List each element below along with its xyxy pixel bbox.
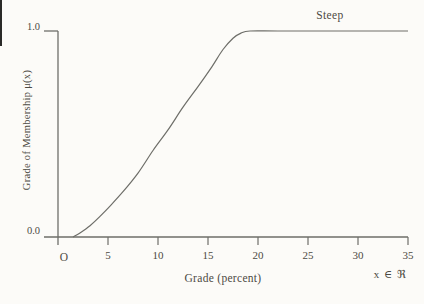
x-axis-title: Grade (percent) bbox=[185, 272, 262, 284]
x-tick-label-5: 5 bbox=[105, 249, 111, 261]
x-tick-label-35: 35 bbox=[403, 249, 414, 261]
x-tick-label-25: 25 bbox=[303, 249, 314, 261]
x-tick-label-15: 15 bbox=[203, 249, 214, 261]
curve-label: Steep bbox=[316, 9, 344, 21]
origin-label: O bbox=[60, 251, 68, 263]
domain-annotation: x ∈ ℜ bbox=[374, 268, 407, 281]
membership-function-figure: Steep 1.0 0.0 O Grade of Membership μ(x)… bbox=[0, 0, 424, 304]
y-axis-min-label: 0.0 bbox=[27, 225, 40, 236]
membership-curve-steep bbox=[73, 31, 408, 237]
y-axis-title: Grade of Membership μ(x) bbox=[21, 70, 32, 190]
y-axis-max-label: 1.0 bbox=[27, 21, 40, 32]
x-tick-label-20: 20 bbox=[253, 249, 264, 261]
x-tick-label-30: 30 bbox=[353, 249, 364, 261]
x-tick-label-10: 10 bbox=[153, 249, 164, 261]
